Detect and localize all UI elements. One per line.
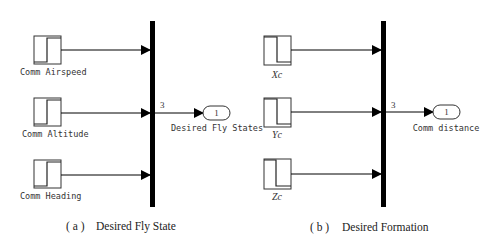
- outport-block[interactable]: 1: [433, 105, 460, 119]
- outport-block[interactable]: 1: [203, 106, 230, 120]
- outport-number: 1: [214, 108, 219, 118]
- step-icon: [264, 99, 291, 124]
- input-label-yc: Yc: [272, 129, 283, 140]
- outport-number: 1: [444, 107, 449, 117]
- step-icon: [34, 38, 61, 62]
- outport-label: Desired Fly States: [171, 123, 263, 133]
- panel-b: Xc Yc Zc 3 1 Comm distance ( b ) Desired…: [264, 21, 479, 234]
- step-icon: [264, 160, 291, 186]
- input-label-altitude: Comm Altitude: [22, 129, 89, 139]
- caption-title: Desired Fly State: [96, 220, 176, 233]
- input-label-airspeed: Comm Airspeed: [20, 67, 87, 77]
- caption-title: Desired Formation: [342, 221, 429, 233]
- caption-prefix: ( b ): [310, 221, 329, 234]
- step-block-zc[interactable]: [264, 159, 291, 189]
- mux-block[interactable]: [150, 21, 155, 207]
- step-icon: [34, 162, 61, 186]
- signal-width-label: 3: [160, 100, 165, 110]
- step-block-heading[interactable]: [34, 160, 61, 188]
- step-icon: [264, 37, 291, 62]
- input-label-heading: Comm Heading: [20, 191, 81, 201]
- step-block-altitude[interactable]: [34, 98, 61, 126]
- step-block-airspeed[interactable]: [34, 36, 61, 64]
- step-block-xc[interactable]: [264, 36, 291, 65]
- caption-prefix: ( a ): [66, 220, 85, 233]
- step-block-yc[interactable]: [264, 98, 291, 127]
- signal-width-label: 3: [391, 100, 396, 110]
- panel-a: Comm Airspeed Comm Altitude Comm Heading…: [20, 21, 263, 233]
- input-label-zc: Zc: [272, 191, 283, 202]
- input-label-xc: Xc: [271, 69, 283, 80]
- mux-block[interactable]: [381, 21, 386, 207]
- outport-label: Comm distance: [413, 123, 480, 133]
- step-icon: [34, 100, 61, 124]
